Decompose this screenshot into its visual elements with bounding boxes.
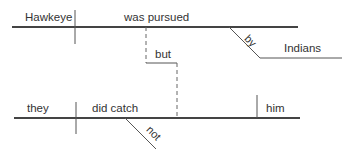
clause1-verb: was pursued	[124, 12, 189, 24]
clause1-subject: Hawkeye	[25, 12, 72, 24]
clause2-subject: they	[27, 103, 49, 115]
diagram-lines	[0, 0, 352, 160]
indians-object: Indians	[284, 43, 321, 55]
clause2-object: him	[266, 103, 285, 115]
conjunction-but: but	[155, 49, 171, 61]
clause2-verb: did catch	[92, 103, 138, 115]
